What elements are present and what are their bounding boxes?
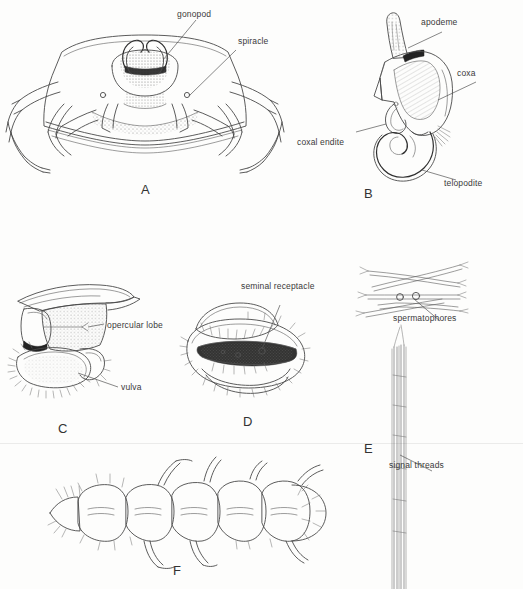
panel-letter-f: F — [173, 563, 181, 578]
label-seminal-receptacle: seminal receptacle — [241, 281, 315, 291]
panel-letter-c: C — [58, 421, 68, 436]
leader-coxa — [438, 82, 476, 100]
figure-plate: gonopod spiracle A — [0, 0, 523, 589]
panel-d: seminal receptacle — [178, 285, 338, 415]
label-telopodite: telopodite — [444, 178, 482, 188]
panel-d-drawing — [178, 285, 338, 415]
leader-spiracle — [190, 50, 236, 95]
leader-apodeme — [408, 32, 442, 48]
panel-letter-b: B — [364, 186, 373, 201]
panel-c-drawing — [0, 265, 190, 415]
panel-b-drawing — [290, 0, 523, 205]
label-gonopod: gonopod — [177, 9, 211, 19]
panel-letter-d: D — [243, 414, 253, 429]
leader-seminal-receptacle — [262, 305, 280, 349]
panel-c: opercular lobe vulva — [0, 265, 190, 415]
panel-e: spermatophores signal threads — [348, 255, 523, 589]
spermatophore-1 — [397, 294, 404, 301]
label-vulva: vulva — [121, 382, 142, 392]
label-signal-threads: signal threads — [389, 460, 444, 470]
label-apodeme: apodeme — [421, 17, 458, 27]
spiracle-right-mark — [184, 92, 189, 97]
leader-gonopod — [163, 20, 196, 60]
panel-a: gonopod spiracle — [0, 0, 290, 200]
spermatophore-2 — [412, 292, 419, 299]
panel-e-drawing — [348, 255, 523, 589]
spiracle-left-mark — [100, 92, 105, 97]
panel-letter-a: A — [141, 182, 150, 197]
leader-vulva — [78, 373, 118, 387]
label-opercular-lobe: opercular lobe — [107, 320, 163, 330]
panel-f-drawing — [40, 455, 330, 575]
label-spermatophores: spermatophores — [393, 313, 457, 323]
panel-f — [40, 455, 330, 575]
leader-coxal-endite — [356, 124, 386, 132]
panel-b: apodeme coxa coxal endite telopodite — [290, 0, 523, 205]
label-coxal-endite: coxal endite — [297, 137, 344, 147]
scan-seam — [0, 443, 523, 444]
label-coxa: coxa — [457, 68, 476, 78]
label-spiracle: spiracle — [238, 36, 269, 46]
panel-a-drawing — [0, 0, 290, 200]
